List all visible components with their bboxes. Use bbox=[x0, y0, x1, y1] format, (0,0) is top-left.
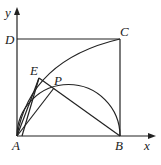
segment-AE bbox=[17, 78, 39, 136]
label-x: x bbox=[143, 138, 150, 153]
segment-EB bbox=[39, 78, 120, 136]
label-C: C bbox=[120, 24, 129, 39]
label-P: P bbox=[53, 73, 62, 88]
label-E: E bbox=[29, 63, 38, 78]
semicircle-AB bbox=[17, 85, 120, 137]
label-B: B bbox=[115, 138, 123, 153]
label-y: y bbox=[3, 5, 11, 20]
arc-AC bbox=[17, 39, 120, 136]
label-D: D bbox=[4, 32, 15, 47]
y-axis-arrow-icon bbox=[14, 7, 20, 15]
geometry-diagram: y x D C E P A B bbox=[0, 0, 161, 165]
label-A: A bbox=[11, 138, 20, 153]
segment-EA2 bbox=[22, 78, 39, 136]
